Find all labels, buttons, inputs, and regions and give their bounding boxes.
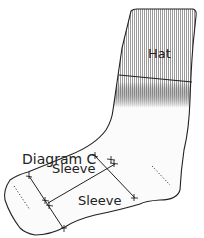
hat-label: Hat [148,46,171,61]
sleeve-label-lower: Sleeve [78,193,122,208]
sock-diagram: Hat Diagram C Sleeve Sleeve [0,0,204,238]
sleeve-label-upper: Sleeve [52,161,96,176]
